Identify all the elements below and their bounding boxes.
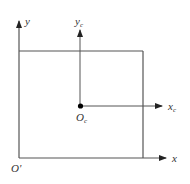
coordinate-frame-diagram: y yc Oc xc O' x [0, 0, 190, 184]
local-yc-label: yc [74, 15, 84, 29]
local-origin-label: Oc [76, 111, 88, 125]
local-xc-label: xc [167, 100, 177, 114]
global-y-label: y [24, 15, 30, 27]
global-x-label: x [171, 152, 177, 164]
local-origin-dot [78, 103, 83, 108]
global-origin-label: O' [11, 162, 22, 174]
